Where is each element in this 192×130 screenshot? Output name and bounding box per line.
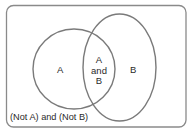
set-b-label: B — [130, 65, 136, 75]
intersection-label: A and B — [87, 55, 111, 87]
intersection-line-1: A — [87, 55, 111, 66]
complement-label: (Not A) and (Not B) — [10, 113, 88, 122]
set-a-label: A — [57, 65, 63, 75]
intersection-line-3: B — [87, 76, 111, 87]
